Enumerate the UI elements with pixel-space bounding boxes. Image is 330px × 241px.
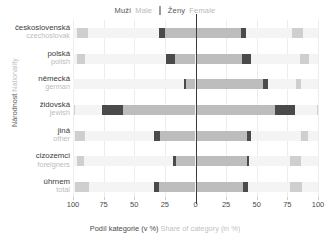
- outer-marker-right: [290, 182, 302, 192]
- male-bar-cap: [154, 131, 160, 141]
- female-bar-cap: [263, 79, 268, 89]
- y-label-en: jewish: [2, 109, 70, 117]
- y-axis-label-total: úhrnemtotal: [2, 178, 70, 194]
- outer-marker-left: [77, 156, 84, 166]
- x-tick-label-7: 75: [274, 200, 300, 209]
- male-bar: [154, 131, 196, 141]
- x-axis-title-en: Share of category (in %): [160, 224, 240, 233]
- legend-male-cz: Muži: [115, 6, 132, 15]
- x-tick-label-2: 50: [121, 200, 147, 209]
- y-label-en: foreigners: [2, 161, 70, 169]
- outer-marker-left: [75, 131, 85, 141]
- y-axis-label-foreigners: cizozemciforeigners: [2, 152, 70, 168]
- y-label-en: total: [2, 186, 70, 194]
- female-bar-cap: [247, 131, 251, 141]
- outer-marker-right: [296, 79, 301, 89]
- outer-marker-right: [290, 156, 301, 166]
- female-bar: [196, 156, 250, 166]
- y-axis-label-other: jináother: [2, 127, 70, 143]
- legend-male-en: Male: [135, 6, 152, 15]
- outer-marker-left: [75, 182, 88, 192]
- legend-divider: [159, 6, 161, 15]
- y-label-en: czechoslovak: [2, 32, 70, 40]
- male-bar-cap: [166, 54, 175, 64]
- y-axis-label-german: německágerman: [2, 75, 70, 91]
- outer-marker-right: [317, 105, 318, 115]
- y-axis-label-polish: polskápolish: [2, 50, 70, 66]
- x-tick-label-5: 25: [213, 200, 239, 209]
- female-bar: [196, 79, 268, 89]
- male-bar-cap: [184, 79, 185, 89]
- female-bar-cap: [275, 105, 295, 115]
- x-tick-label-1: 75: [91, 200, 117, 209]
- nationality-gender-chart: Muži Male Ženy Female Národnost National…: [0, 0, 330, 241]
- outer-marker-right: [301, 131, 308, 141]
- female-bar: [196, 28, 246, 38]
- x-tick-label-0: 100: [60, 200, 86, 209]
- outer-marker-right: [300, 54, 310, 64]
- female-bar-cap: [242, 54, 251, 64]
- male-bar-cap: [102, 105, 123, 115]
- male-bar-cap: [159, 28, 165, 38]
- male-bar: [184, 79, 195, 89]
- x-axis-title: Podíl kategorie (v %) Share of category …: [0, 224, 330, 233]
- legend-female-en: Female: [189, 6, 215, 15]
- female-bar-cap: [241, 28, 246, 38]
- grid-line-8: [318, 20, 319, 200]
- male-bar: [154, 182, 196, 192]
- legend-female-cz: Ženy: [168, 6, 185, 15]
- male-bar-cap: [173, 156, 175, 166]
- x-tick-label-3: 25: [152, 200, 178, 209]
- y-axis-label-jewish: židovskájewish: [2, 101, 70, 117]
- chart-legend: Muži Male Ženy Female: [0, 2, 330, 18]
- female-bar-cap: [247, 156, 249, 166]
- x-tick-label-6: 50: [244, 200, 270, 209]
- female-bar-cap: [243, 182, 248, 192]
- outer-marker-left: [74, 105, 75, 115]
- female-bar: [196, 182, 249, 192]
- y-label-en: german: [2, 83, 70, 91]
- x-axis-title-cz: Podíl kategorie (v %): [90, 224, 159, 233]
- male-bar-cap: [154, 182, 159, 192]
- y-axis-label-czechoslovak: československáczechoslovak: [2, 24, 70, 40]
- outer-marker-left: [77, 28, 88, 38]
- outer-marker-left: [77, 54, 86, 64]
- female-bar: [196, 131, 251, 141]
- y-label-en: polish: [2, 58, 70, 66]
- plot-area: [73, 20, 318, 200]
- outer-marker-right: [292, 28, 303, 38]
- x-tick-label-8: 100: [305, 200, 330, 209]
- male-bar: [173, 156, 195, 166]
- y-axis-labels: československáczechoslovakpolskápolishně…: [0, 20, 70, 200]
- y-label-en: other: [2, 135, 70, 143]
- zero-axis-line: [196, 14, 197, 204]
